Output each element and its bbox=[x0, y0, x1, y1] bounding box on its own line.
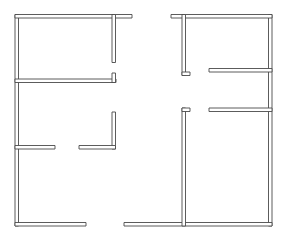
right-lower-partition-vertical bbox=[182, 108, 186, 226]
floor-plan-drawing bbox=[0, 0, 283, 246]
right-lower-partition-jamb bbox=[182, 108, 190, 112]
left-lower-stub-wall bbox=[15, 146, 55, 150]
right-upper-partition-jamb bbox=[182, 72, 190, 76]
left-top-partition-vertical bbox=[112, 15, 116, 63]
right-upper-cross-wall bbox=[209, 69, 272, 73]
left-exterior-wall bbox=[15, 15, 19, 227]
left-unit-bottom-wall bbox=[15, 223, 86, 227]
left-middle-partition-horizontal bbox=[15, 79, 116, 83]
left-middle-partition-jamb bbox=[112, 73, 116, 83]
plan-background bbox=[0, 0, 283, 246]
right-exterior-wall bbox=[269, 15, 273, 227]
right-middle-cross-wall bbox=[209, 108, 272, 112]
right-unit-top-wall bbox=[171, 15, 272, 19]
right-unit-bottom-wall bbox=[124, 223, 272, 227]
left-lower-l-wall-horizontal bbox=[79, 146, 116, 150]
floor-plan-canvas bbox=[0, 0, 283, 246]
right-upper-partition-vertical bbox=[182, 15, 186, 76]
left-lower-l-wall-vertical bbox=[112, 112, 116, 149]
